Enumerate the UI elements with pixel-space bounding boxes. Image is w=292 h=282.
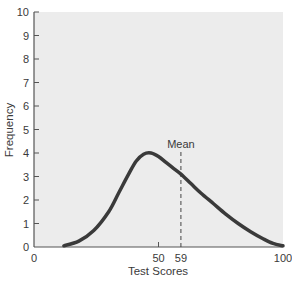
chart: 012345678910 05059100 Mean Test Scores F… xyxy=(0,0,292,282)
y-tick-label: 10 xyxy=(17,6,29,18)
y-tick-label: 1 xyxy=(23,218,29,230)
y-tick-label: 2 xyxy=(23,194,29,206)
y-tick-label: 9 xyxy=(23,30,29,42)
y-axis-title: Frequency xyxy=(3,103,15,158)
x-axis-title: Test Scores xyxy=(128,265,188,277)
y-tick-label: 4 xyxy=(23,147,29,159)
x-tick-label: 50 xyxy=(152,252,164,264)
mean-label: Mean xyxy=(167,138,195,150)
y-tick-label: 6 xyxy=(23,100,29,112)
y-tick-label: 0 xyxy=(23,241,29,253)
plot-area xyxy=(34,12,283,247)
y-tick-label: 3 xyxy=(23,171,29,183)
y-tick-label: 8 xyxy=(23,53,29,65)
y-tick-label: 5 xyxy=(23,124,29,136)
y-tick-label: 7 xyxy=(23,77,29,89)
x-tick-label: 0 xyxy=(31,252,37,264)
x-tick-label: 59 xyxy=(175,252,187,264)
x-tick-label: 100 xyxy=(274,252,292,264)
